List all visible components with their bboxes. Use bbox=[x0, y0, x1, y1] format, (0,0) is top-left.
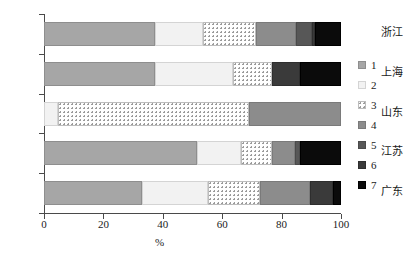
bar-segment-6[interactable] bbox=[272, 62, 300, 86]
bar-segment-7[interactable] bbox=[333, 181, 341, 205]
legend-swatch-3 bbox=[358, 101, 366, 109]
bar-segment-3[interactable] bbox=[208, 181, 260, 205]
stacked-bar[interactable] bbox=[44, 62, 341, 86]
legend-label: 3 bbox=[371, 100, 377, 111]
legend-label: 5 bbox=[371, 140, 377, 151]
bar-row bbox=[44, 102, 341, 126]
legend-label: 4 bbox=[371, 120, 377, 131]
bar-segment-3[interactable] bbox=[58, 102, 249, 126]
legend-swatch-1 bbox=[358, 61, 366, 69]
bar-segment-2[interactable] bbox=[197, 141, 241, 165]
x-axis-title-text: % bbox=[155, 236, 164, 248]
bar-segment-1[interactable] bbox=[44, 141, 197, 165]
legend: 1234567 bbox=[358, 55, 403, 195]
bar-segment-3[interactable] bbox=[203, 22, 256, 46]
x-axis-tick-label: 40 bbox=[148, 218, 178, 230]
legend-label: 1 bbox=[371, 60, 377, 71]
bar-segment-4[interactable] bbox=[272, 141, 295, 165]
legend-item[interactable]: 5 bbox=[358, 135, 403, 155]
legend-item[interactable]: 1 bbox=[358, 55, 403, 75]
bar-row bbox=[44, 62, 341, 86]
bar-segment-4[interactable] bbox=[249, 102, 341, 126]
legend-swatch-5 bbox=[358, 141, 366, 149]
legend-swatch-7 bbox=[358, 181, 366, 189]
x-axis-tick-label: 0 bbox=[29, 218, 59, 230]
bar-segment-1[interactable] bbox=[44, 181, 142, 205]
legend-item[interactable]: 2 bbox=[358, 75, 403, 95]
bar-row bbox=[44, 141, 341, 165]
bar-segment-7[interactable] bbox=[315, 22, 341, 46]
bar-segment-1[interactable] bbox=[44, 22, 155, 46]
bar-segment-2[interactable] bbox=[44, 102, 58, 126]
stacked-bar-chart: 浙江上海山东江苏广东 020406080100 % 1234567 bbox=[0, 0, 403, 263]
y-axis-category-label: 浙江 bbox=[365, 27, 403, 39]
stacked-bar[interactable] bbox=[44, 181, 341, 205]
legend-swatch-4 bbox=[358, 121, 366, 129]
legend-item[interactable]: 6 bbox=[358, 155, 403, 175]
legend-item[interactable]: 4 bbox=[358, 115, 403, 135]
x-axis-title: % bbox=[0, 236, 403, 248]
bar-segment-5[interactable] bbox=[296, 22, 312, 46]
legend-label: 6 bbox=[371, 160, 377, 171]
bar-segment-4[interactable] bbox=[260, 181, 310, 205]
bar-row bbox=[44, 22, 341, 46]
stacked-bar[interactable] bbox=[44, 22, 341, 46]
bar-segment-1[interactable] bbox=[44, 62, 155, 86]
plot-area bbox=[44, 14, 341, 213]
bar-segment-6[interactable] bbox=[310, 181, 333, 205]
bar-segment-2[interactable] bbox=[155, 62, 233, 86]
x-axis-tick-label: 100 bbox=[326, 218, 356, 230]
stacked-bar[interactable] bbox=[44, 102, 341, 126]
legend-item[interactable]: 3 bbox=[358, 95, 403, 115]
x-axis-line bbox=[44, 213, 341, 214]
bar-row bbox=[44, 181, 341, 205]
x-axis-tick-label: 60 bbox=[207, 218, 237, 230]
stacked-bar[interactable] bbox=[44, 141, 341, 165]
legend-swatch-6 bbox=[358, 161, 366, 169]
legend-label: 2 bbox=[371, 80, 377, 91]
legend-swatch-2 bbox=[358, 81, 366, 89]
legend-label: 7 bbox=[371, 180, 377, 191]
x-axis-tick-label: 80 bbox=[267, 218, 297, 230]
bar-segment-3[interactable] bbox=[241, 141, 272, 165]
bar-segment-2[interactable] bbox=[155, 22, 203, 46]
legend-item[interactable]: 7 bbox=[358, 175, 403, 195]
bar-segment-3[interactable] bbox=[233, 62, 272, 86]
x-axis-tick-label: 20 bbox=[88, 218, 118, 230]
bar-segment-7[interactable] bbox=[300, 62, 341, 86]
bar-segment-4[interactable] bbox=[256, 22, 296, 46]
bar-segment-7[interactable] bbox=[300, 141, 341, 165]
bar-segment-2[interactable] bbox=[142, 181, 208, 205]
